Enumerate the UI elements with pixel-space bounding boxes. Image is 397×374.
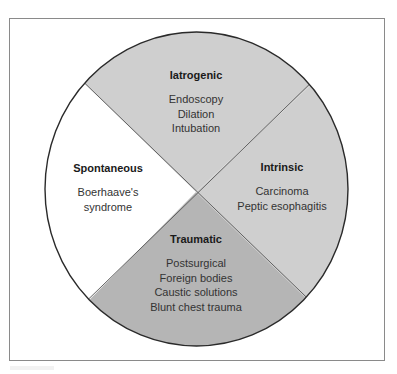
segment-item: Carcinoma — [220, 184, 344, 199]
segment-item: Intubation — [146, 121, 246, 136]
segment-label-intrinsic: Intrinsic Carcinoma Peptic esophagitis — [220, 161, 344, 213]
segment-title: Spontaneous — [58, 162, 158, 174]
segment-title: Iatrogenic — [146, 69, 246, 81]
segment-item: Boerhaave's — [58, 185, 158, 200]
segment-title: Traumatic — [136, 233, 256, 245]
segment-item: Dilation — [146, 107, 246, 122]
segment-item: Postsurgical — [136, 256, 256, 271]
footer-mark — [10, 366, 54, 370]
segment-title: Intrinsic — [220, 161, 344, 173]
segment-item: Peptic esophagitis — [220, 199, 344, 214]
segment-item: Endoscopy — [146, 92, 246, 107]
segment-label-iatrogenic: Iatrogenic Endoscopy Dilation Intubation — [146, 69, 246, 136]
segment-label-spontaneous: Spontaneous Boerhaave's syndrome — [58, 162, 158, 214]
segment-item: Caustic solutions — [136, 285, 256, 300]
segment-item: syndrome — [58, 200, 158, 215]
segment-item: Blunt chest trauma — [136, 300, 256, 315]
segment-label-traumatic: Traumatic Postsurgical Foreign bodies Ca… — [136, 233, 256, 314]
segment-item: Foreign bodies — [136, 271, 256, 286]
